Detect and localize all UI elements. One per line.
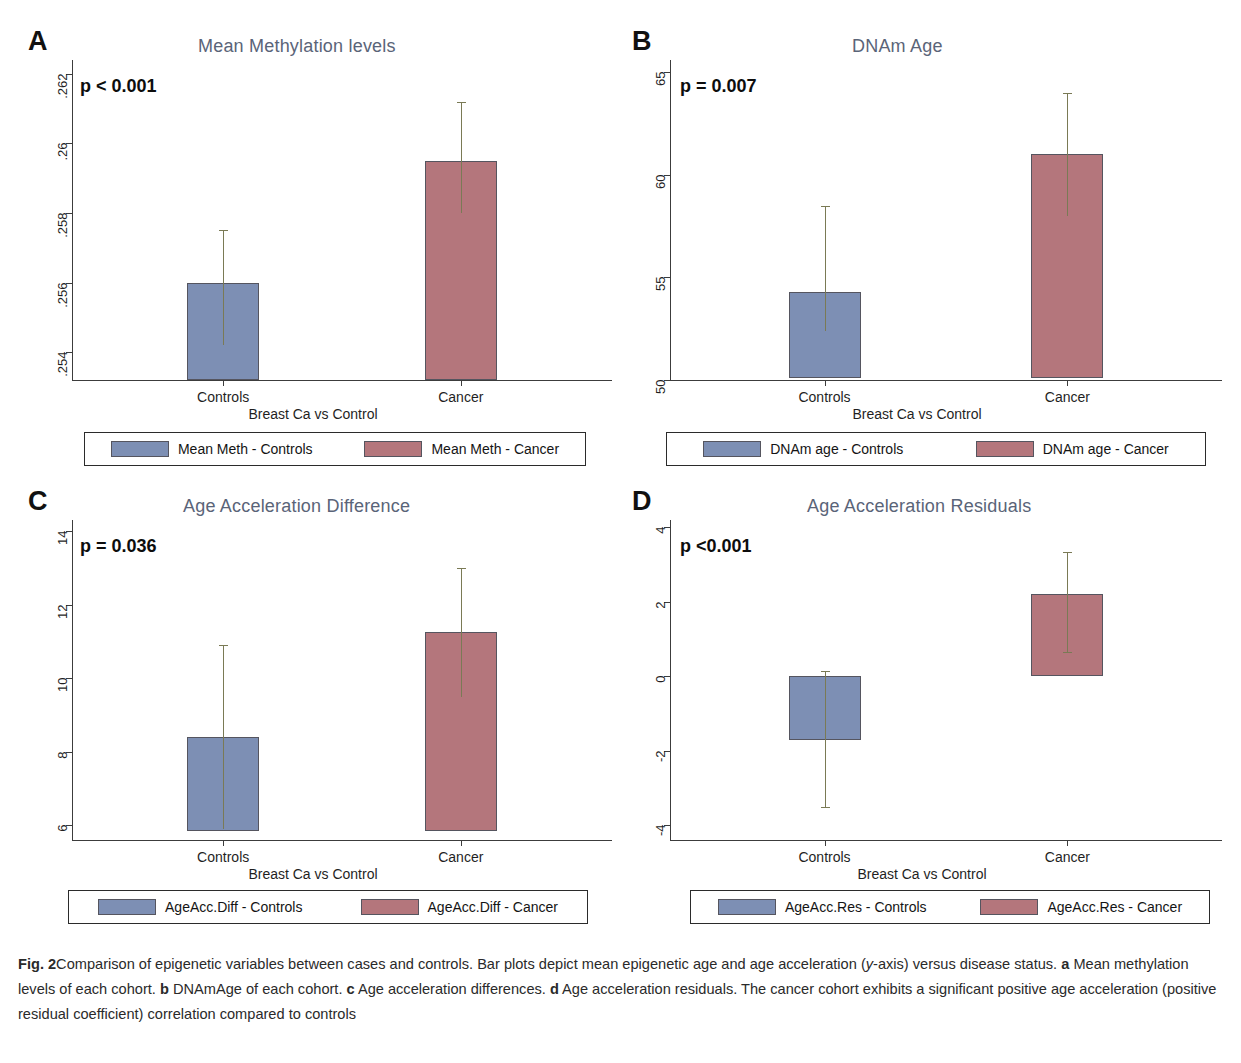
figure-caption: Fig. 2Comparison of epigenetic variables… <box>18 952 1223 1027</box>
error-bar-line <box>461 568 462 697</box>
panel-b-xaxis-title: Breast Ca vs Control <box>752 406 1082 422</box>
x-axis-line <box>670 840 1222 841</box>
x-axis-category-label: Cancer <box>401 849 521 865</box>
x-axis-tick <box>1067 380 1068 386</box>
panel-a: A Mean Methylation levels p < 0.001 .254… <box>18 28 618 468</box>
panel-d-title: Age Acceleration Residuals <box>807 496 1031 517</box>
panel-b-letter: B <box>632 28 652 55</box>
panel-c-xaxis-title: Breast Ca vs Control <box>148 866 478 882</box>
y-axis-line <box>72 520 73 840</box>
legend-entry: AgeAcc.Res - Controls <box>718 899 927 915</box>
figure-container: A Mean Methylation levels p < 0.001 .254… <box>0 0 1241 1063</box>
panel-b: B DNAm Age p = 0.007 50556065ControlsCan… <box>622 28 1222 468</box>
caption-yaxis-italic: y <box>866 956 873 972</box>
caption-text-c: Age acceleration differences. <box>355 981 550 997</box>
panel-a-xaxis-title: Breast Ca vs Control <box>148 406 478 422</box>
y-axis-tick-label: 4 <box>653 527 668 563</box>
x-axis-tick <box>461 840 462 846</box>
legend-label: AgeAcc.Res - Controls <box>785 899 927 915</box>
error-bar-cap <box>1063 93 1072 94</box>
legend-swatch-cancer <box>976 441 1034 457</box>
caption-text-1: Comparison of epigenetic variables betwe… <box>56 956 866 972</box>
x-axis-category-label: Cancer <box>1007 389 1127 405</box>
y-axis-tick-label: 12 <box>55 604 70 640</box>
y-axis-line <box>72 60 73 380</box>
caption-figure-label: Fig. 2 <box>18 956 56 972</box>
legend-entry: Mean Meth - Controls <box>111 441 313 457</box>
x-axis-category-label: Controls <box>765 389 885 405</box>
x-axis-line <box>72 840 612 841</box>
panel-a-plot: .254.256.258.26.262ControlsCancer <box>72 60 612 380</box>
caption-b-label: b <box>160 981 169 997</box>
y-axis-tick-label: 50 <box>653 380 668 416</box>
legend-swatch-controls <box>98 899 156 915</box>
panel-c-title: Age Acceleration Difference <box>183 496 410 517</box>
error-bar-line <box>1067 93 1068 216</box>
panel-d-xaxis-title: Breast Ca vs Control <box>757 866 1087 882</box>
panel-b-plot: 50556065ControlsCancer <box>670 60 1222 380</box>
legend-swatch-controls <box>111 441 169 457</box>
legend-label: DNAm age - Controls <box>770 441 903 457</box>
y-axis-tick-label: 8 <box>55 751 70 787</box>
y-axis-tick-label: 55 <box>653 277 668 313</box>
x-axis-category-label: Controls <box>765 849 885 865</box>
legend-swatch-cancer <box>980 899 1038 915</box>
legend-label: AgeAcc.Res - Cancer <box>1047 899 1182 915</box>
x-axis-tick <box>461 380 462 386</box>
y-axis-tick-label: 14 <box>55 531 70 567</box>
error-bar-cap <box>821 807 830 808</box>
error-bar-line <box>825 671 826 807</box>
error-bar-cap <box>457 102 466 103</box>
legend-label: Mean Meth - Cancer <box>431 441 559 457</box>
error-bar-cap <box>219 645 228 646</box>
y-axis-tick-label: 2 <box>653 601 668 637</box>
error-bar-line <box>825 206 826 331</box>
panel-c: C Age Acceleration Difference p = 0.036 … <box>18 488 618 928</box>
error-bar-line <box>223 645 224 829</box>
panel-a-title: Mean Methylation levels <box>198 36 396 57</box>
y-axis-tick-label: 65 <box>653 72 668 108</box>
error-bar-line <box>223 230 224 345</box>
y-axis-tick-label: .256 <box>55 282 70 318</box>
panel-d: D Age Acceleration Residuals p <0.001 -4… <box>622 488 1222 928</box>
y-axis-tick-label: .254 <box>55 352 70 388</box>
x-axis-category-label: Controls <box>163 389 283 405</box>
panel-c-legend: AgeAcc.Diff - ControlsAgeAcc.Diff - Canc… <box>68 890 588 924</box>
y-axis-tick-label: 0 <box>653 676 668 712</box>
error-bar-line <box>1067 552 1068 652</box>
y-axis-tick-label: -4 <box>653 825 668 861</box>
error-bar-cap <box>1063 652 1072 653</box>
legend-label: Mean Meth - Controls <box>178 441 313 457</box>
x-axis-category-label: Cancer <box>1007 849 1127 865</box>
legend-label: AgeAcc.Diff - Controls <box>165 899 302 915</box>
legend-label: DNAm age - Cancer <box>1043 441 1169 457</box>
legend-swatch-cancer <box>361 899 419 915</box>
panel-c-letter: C <box>28 488 48 515</box>
panel-a-letter: A <box>28 28 48 55</box>
error-bar-cap <box>821 206 830 207</box>
panel-d-legend: AgeAcc.Res - ControlsAgeAcc.Res - Cancer <box>690 890 1210 924</box>
y-axis-tick-label: 10 <box>55 678 70 714</box>
legend-label: AgeAcc.Diff - Cancer <box>428 899 558 915</box>
x-axis-tick <box>825 840 826 846</box>
legend-entry: AgeAcc.Res - Cancer <box>980 899 1182 915</box>
y-axis-tick-label: .262 <box>55 73 70 109</box>
y-axis-tick-label: 60 <box>653 174 668 210</box>
y-axis-line <box>670 520 671 840</box>
x-axis-tick <box>825 380 826 386</box>
caption-c-label: c <box>347 981 355 997</box>
panel-c-plot: 68101214ControlsCancer <box>72 520 612 840</box>
panel-a-legend: Mean Meth - ControlsMean Meth - Cancer <box>84 432 586 466</box>
legend-entry: DNAm age - Controls <box>703 441 903 457</box>
panel-b-legend: DNAm age - ControlsDNAm age - Cancer <box>666 432 1206 466</box>
error-bar-cap <box>219 230 228 231</box>
legend-entry: DNAm age - Cancer <box>976 441 1169 457</box>
legend-swatch-cancer <box>364 441 422 457</box>
x-axis-tick <box>223 840 224 846</box>
legend-entry: AgeAcc.Diff - Controls <box>98 899 302 915</box>
x-axis-tick <box>223 380 224 386</box>
y-axis-tick-label: -2 <box>653 750 668 786</box>
y-axis-tick-label: 6 <box>55 825 70 861</box>
x-axis-line <box>72 380 612 381</box>
caption-text-b: DNAmAge of each cohort. <box>169 981 347 997</box>
